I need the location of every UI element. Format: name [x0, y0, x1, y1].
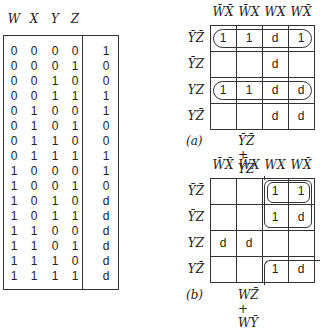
header-z: Z: [65, 12, 85, 26]
input-value: 0: [24, 74, 44, 88]
input-value: 0: [4, 59, 24, 73]
row-header: YZ̄: [176, 262, 204, 276]
output-value: d: [96, 239, 116, 253]
input-value: 1: [65, 239, 85, 253]
kmap-cell: [236, 256, 262, 282]
input-value: 1: [4, 194, 24, 208]
map-label: (a): [186, 134, 203, 148]
kmap-cell: [288, 230, 314, 256]
kmap-cell: [262, 230, 288, 256]
column-header: W̄X̄: [210, 5, 236, 19]
input-value: 1: [24, 254, 44, 268]
output-value: d: [96, 194, 116, 208]
header-y: Y: [45, 12, 65, 26]
grouping-loop: [264, 176, 320, 180]
input-value: 1: [45, 89, 65, 103]
input-value: 0: [45, 59, 65, 73]
output-value: 0: [96, 74, 116, 88]
kmap-cell: [210, 204, 236, 230]
column-header: WX̄: [288, 5, 314, 19]
input-value: 0: [45, 104, 65, 118]
input-value: 1: [65, 59, 85, 73]
input-value: 1: [4, 269, 24, 283]
input-value: 0: [65, 224, 85, 238]
input-value: 1: [24, 104, 44, 118]
input-value: 0: [45, 119, 65, 133]
input-value: 0: [45, 224, 65, 238]
column-header: WX̄: [288, 158, 314, 172]
input-value: 1: [45, 269, 65, 283]
column-header: W̄X: [236, 5, 262, 19]
output-value: 0: [96, 59, 116, 73]
input-value: 1: [65, 89, 85, 103]
input-value: 0: [45, 239, 65, 253]
kmap-cell: d: [262, 103, 288, 129]
input-value: 0: [4, 89, 24, 103]
input-value: 1: [65, 209, 85, 223]
row-header: ȲZ: [176, 57, 204, 71]
column-header: WX: [262, 5, 288, 19]
output-value: d: [96, 254, 116, 268]
kmap-cell: [236, 204, 262, 230]
input-value: 0: [65, 194, 85, 208]
output-value: 0: [96, 134, 116, 148]
input-value: 1: [45, 254, 65, 268]
input-value: 0: [4, 74, 24, 88]
kmap-cell: [210, 51, 236, 77]
kmap-cell: [210, 103, 236, 129]
input-value: 1: [24, 269, 44, 283]
kmap-cell: d: [236, 230, 262, 256]
input-value: 1: [24, 149, 44, 163]
row-header: ȲZ: [176, 210, 204, 224]
header-w: W: [4, 12, 24, 26]
input-value: 1: [65, 269, 85, 283]
output-value: 1: [96, 44, 116, 58]
kmap-cell: [210, 256, 236, 282]
input-value: 1: [45, 194, 65, 208]
input-value: 0: [24, 59, 44, 73]
input-value: 0: [24, 209, 44, 223]
input-value: 1: [4, 224, 24, 238]
output-value: 1: [96, 104, 116, 118]
output-value: 1: [96, 164, 116, 178]
input-value: 0: [24, 164, 44, 178]
column-header: WX: [262, 158, 288, 172]
input-value: 0: [24, 89, 44, 103]
row-header: ȲZ̄: [176, 184, 204, 198]
input-value: 1: [4, 209, 24, 223]
row-header: ȲZ̄: [176, 31, 204, 45]
input-value: 0: [45, 179, 65, 193]
kmap-cell: [236, 51, 262, 77]
input-value: 1: [4, 239, 24, 253]
kmap-cell: d: [210, 230, 236, 256]
output-value: 1: [96, 149, 116, 163]
input-value: 0: [4, 149, 24, 163]
grouping-loop: [267, 182, 310, 203]
kmap-cell: [236, 103, 262, 129]
kmap-cell: d: [288, 103, 314, 129]
column-header: W̄X: [236, 158, 262, 172]
map-label: (b): [186, 288, 203, 302]
input-value: 1: [24, 224, 44, 238]
input-value: 1: [45, 134, 65, 148]
kmap-cell: d: [262, 51, 288, 77]
output-value: 0: [96, 119, 116, 133]
input-value: 0: [65, 104, 85, 118]
input-value: 0: [4, 104, 24, 118]
input-value: 1: [65, 179, 85, 193]
input-value: 1: [45, 74, 65, 88]
input-value: 0: [65, 164, 85, 178]
output-value: d: [96, 209, 116, 223]
input-value: 0: [24, 44, 44, 58]
input-value: 0: [65, 254, 85, 268]
input-value: 0: [4, 134, 24, 148]
input-value: 1: [4, 254, 24, 268]
output-value: 1: [96, 89, 116, 103]
input-value: 0: [45, 164, 65, 178]
grouping-loop: [213, 29, 312, 48]
input-value: 1: [24, 134, 44, 148]
input-value: 0: [4, 119, 24, 133]
kmap-cell: [236, 178, 262, 204]
output-value: 0: [96, 179, 116, 193]
header-x: X: [24, 12, 44, 26]
